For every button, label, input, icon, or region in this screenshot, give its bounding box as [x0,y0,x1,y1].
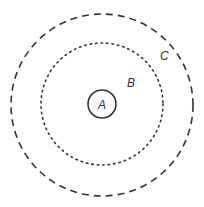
label-b: B [127,76,135,90]
concentric-circles-diagram: A B C [0,0,204,207]
label-a: A [97,98,106,112]
label-c: C [160,49,169,63]
